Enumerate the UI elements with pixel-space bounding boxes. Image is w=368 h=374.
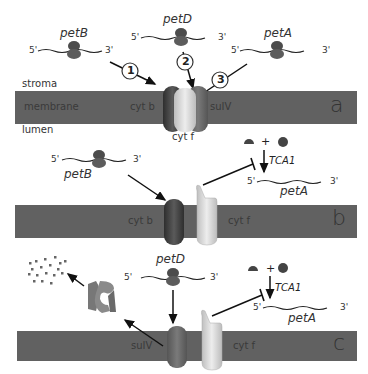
cytb-label: cyt b [130,101,155,112]
plus-sign: + [261,135,270,148]
five-prime-label: 5' [231,45,239,55]
cytb-subunit [164,199,184,245]
tca1-half-icon [248,266,258,271]
protease-icon [88,281,116,313]
step-3-label: 3 [217,73,225,86]
arrow-petB-to-cytb [128,175,165,200]
stroma-label: stroma [22,78,57,89]
panel-a-graphics [15,28,357,132]
cytf-label: cyt f [228,215,250,226]
cytf-subunit [201,310,222,370]
step-1-label: 1 [127,64,135,77]
degradation-products-icon [28,256,67,285]
cytf-subunit [174,88,196,132]
gene-label-petB: petB [64,167,92,181]
cytf-subunit [196,185,217,245]
three-prime-label: 3' [105,45,113,55]
panel-letter-c: c [333,330,345,355]
five-prime-label: 5' [29,45,37,55]
three-prime-label: 3' [218,32,226,42]
panel-letter-b: b [332,205,346,230]
cytb-label: cyt b [128,215,153,226]
three-prime-label: 3' [322,45,330,55]
three-prime-label: 3' [330,176,338,186]
cytf-label: cyt f [233,340,255,351]
three-prime-label: 3' [340,302,348,312]
three-prime-label: 3' [133,154,141,164]
panel-letter-a: a [330,92,343,117]
suIV-label: suIV [210,101,231,112]
gene-label-petD: petD [163,12,192,26]
five-prime-label: 5' [51,154,59,164]
step-2-label: 2 [182,55,190,68]
gene-label-petA: petA [280,184,308,198]
plus-sign: + [266,262,275,275]
arrow-to-degradation [68,274,84,286]
five-prime-label: 5' [247,176,255,186]
inhibition-line [203,164,253,185]
tca1-half-icon [244,139,254,144]
five-prime-label: 5' [124,272,132,282]
tca1-partner-icon [278,137,288,147]
cytf-label: cyt f [172,131,194,142]
gene-label-petD: petD [156,252,185,266]
five-prime-label: 5' [253,302,261,312]
membrane-band [15,205,357,238]
suIV-label: suIV [131,340,152,351]
tca1-label: TCA1 [269,155,295,166]
mrna-petD [141,37,205,40]
gene-label-petB: petB [60,26,88,40]
five-prime-label: 5' [131,32,139,42]
three-prime-label: 3' [210,272,218,282]
membrane-label: membrane [24,101,79,112]
mrna-petA [263,307,327,310]
gene-label-petA: petA [264,26,292,40]
lumen-label: lumen [22,124,53,135]
gene-label-petA: petA [288,311,316,325]
tca1-label: TCA1 [275,282,301,293]
tca1-partner-icon [278,263,288,273]
suIV-subunit [167,326,187,368]
